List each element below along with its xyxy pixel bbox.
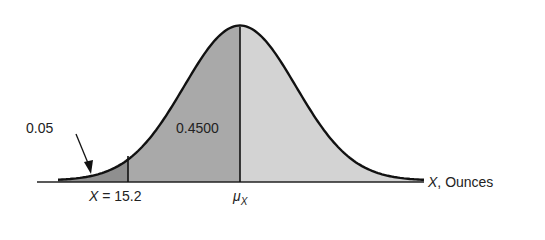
mean-symbol: μ (233, 188, 241, 204)
tail-area-label: 0.05 (26, 120, 53, 136)
cutoff-label: X = 15.2 (89, 188, 142, 204)
middle-area-label: 0.4500 (176, 120, 219, 136)
x-axis-unit: Ounces (445, 174, 493, 190)
x-axis-label: X, Ounces (428, 174, 493, 190)
mean-label: μX (233, 188, 247, 207)
arrow-icon (76, 134, 93, 174)
x-axis-var: X (428, 174, 437, 190)
cutoff-value: = 15.2 (102, 188, 141, 204)
mean-subscript: X (241, 196, 248, 207)
x-axis-comma: , (437, 174, 445, 190)
cutoff-var: X (89, 188, 98, 204)
region-right-half (58, 26, 424, 183)
